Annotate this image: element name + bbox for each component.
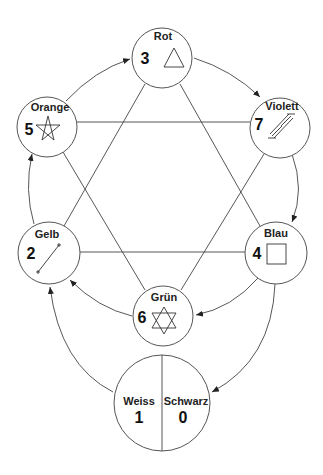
- node-gruen-number: 6: [138, 309, 147, 326]
- node-blau-number: 4: [253, 245, 262, 262]
- node-gruen-label: Grün: [151, 291, 178, 303]
- node-schwarz-number: 0: [179, 409, 188, 426]
- node-weiss-number: 1: [135, 409, 144, 426]
- color-cycle-diagram: Rot 3 Orange 5 Violett 7 Gelb 2: [0, 0, 323, 475]
- node-blau-label: Blau: [264, 227, 288, 239]
- arrow-gelb-to-orange: [28, 154, 34, 224]
- node-violett: Violett 7: [250, 98, 310, 158]
- arrow-blau-to-schwarz: [212, 284, 275, 392]
- arrow-weiss-to-gelb: [50, 287, 113, 392]
- node-violett-label: Violett: [265, 100, 299, 112]
- node-gelb-label: Gelb: [35, 228, 60, 240]
- hexagram-lines: [63, 84, 264, 290]
- node-weiss-label: Weiss: [123, 395, 155, 407]
- node-orange-number: 5: [25, 121, 34, 138]
- arrow-orange-to-rot: [66, 59, 130, 101]
- node-orange-label: Orange: [31, 101, 70, 113]
- node-violett-number: 7: [255, 116, 264, 133]
- node-schwarz-label: Schwarz: [164, 395, 209, 407]
- line-rot-blau: [180, 84, 260, 226]
- node-gelb-number: 2: [27, 245, 36, 262]
- arrow-rot-to-violett: [194, 58, 260, 97]
- node-weiss-schwarz: Weiss 1 Schwarz 0: [114, 355, 210, 451]
- node-orange: Orange 5: [17, 97, 77, 157]
- arrow-blau-to-gruen: [196, 278, 258, 315]
- node-rot-number: 3: [141, 50, 150, 67]
- line-rot-gelb: [64, 84, 145, 226]
- node-rot-label: Rot: [154, 30, 173, 42]
- node-gruen: Grün 6: [133, 286, 193, 346]
- node-gelb: Gelb 2: [18, 222, 80, 284]
- node-rot: Rot 3: [132, 28, 192, 88]
- node-blau: Blau 4: [245, 222, 307, 284]
- arrow-gruen-to-gelb: [70, 280, 132, 316]
- arrow-violett-to-blau: [292, 154, 299, 222]
